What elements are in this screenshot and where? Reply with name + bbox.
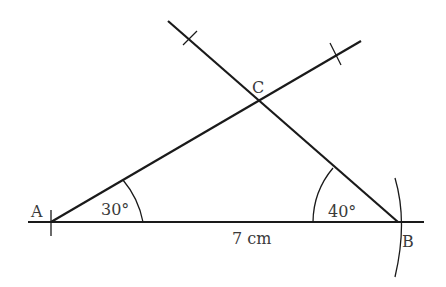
tick-mark-line-BC: [183, 31, 197, 45]
line-BC: [168, 21, 398, 222]
point-label-C: C: [252, 78, 264, 97]
triangle-construction-diagram: A B C 30° 40° 7 cm: [0, 0, 446, 287]
line-AC: [51, 41, 361, 222]
compass-arc-B: [395, 178, 402, 277]
point-label-A: A: [30, 202, 43, 221]
angle-label-B: 40°: [328, 202, 356, 221]
point-label-B: B: [402, 232, 414, 251]
angle-label-A: 30°: [101, 200, 129, 219]
base-length-label: 7 cm: [232, 229, 271, 248]
